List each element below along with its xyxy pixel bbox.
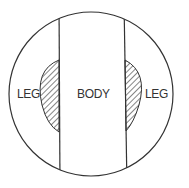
label-body: BODY bbox=[77, 87, 110, 101]
cross-section-diagram: LEG BODY LEG bbox=[0, 0, 189, 188]
label-left-leg: LEG bbox=[17, 87, 40, 101]
label-right-leg: LEG bbox=[145, 87, 168, 101]
diagram-canvas: LEG BODY LEG bbox=[0, 0, 189, 188]
left-hatched-region bbox=[40, 60, 59, 132]
right-hatched-region bbox=[125, 60, 142, 131]
left-divider-line bbox=[59, 0, 60, 188]
